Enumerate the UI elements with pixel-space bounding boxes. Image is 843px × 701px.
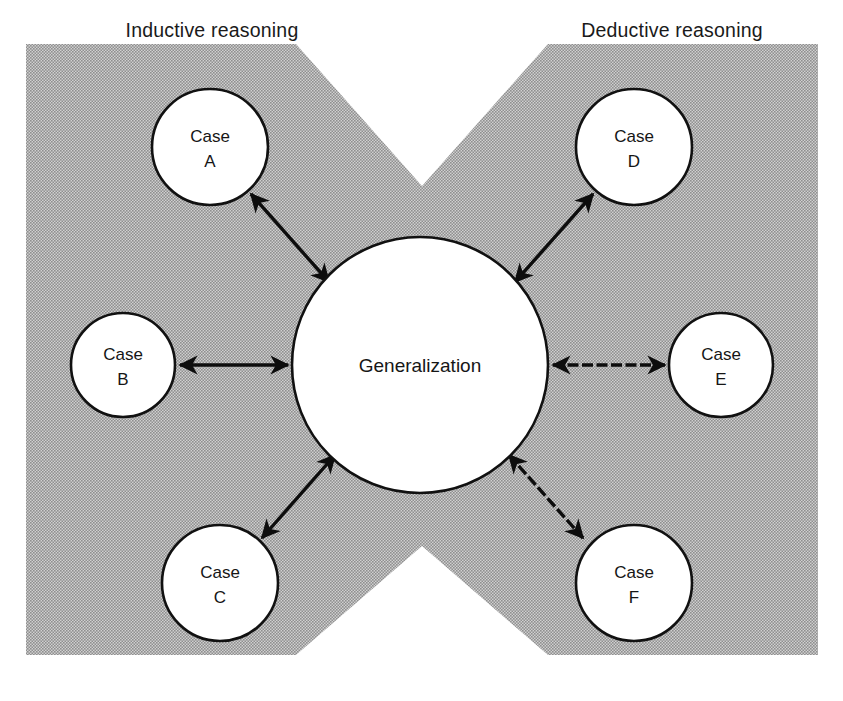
node-case-f[interactable]: Case F [576,525,692,641]
case-d-circle [576,89,692,205]
case-f-label-line1: Case [614,563,654,582]
case-e-circle [669,313,773,417]
case-f-label-line2: F [629,588,639,607]
case-e-label-line2: E [715,370,726,389]
case-a-circle [152,89,268,205]
node-case-a[interactable]: Case A [152,89,268,205]
node-generalization[interactable]: Generalization [292,237,548,493]
case-c-circle [162,525,278,641]
generalization-label: Generalization [359,355,482,376]
case-b-circle [71,313,175,417]
header-label-inductive: Inductive reasoning [126,19,299,41]
case-e-label-line1: Case [701,345,741,364]
case-d-label-line1: Case [614,127,654,146]
case-a-label-line1: Case [190,127,230,146]
node-case-e[interactable]: Case E [669,313,773,417]
case-c-label-line1: Case [200,563,240,582]
inductive-deductive-reasoning-figure: Inductive reasoning Deductive reasoning … [0,0,843,701]
case-c-label-line2: C [214,588,226,607]
case-f-circle [576,525,692,641]
header-label-deductive: Deductive reasoning [581,19,763,41]
case-a-label-line2: A [204,152,216,171]
case-b-label-line2: B [117,370,128,389]
node-case-b[interactable]: Case B [71,313,175,417]
node-case-c[interactable]: Case C [162,525,278,641]
node-case-d[interactable]: Case D [576,89,692,205]
case-b-label-line1: Case [103,345,143,364]
case-d-label-line2: D [628,152,640,171]
